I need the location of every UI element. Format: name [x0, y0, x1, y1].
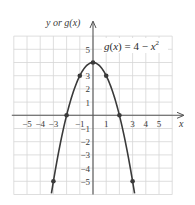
y-axis-label: y or g(x) — [45, 17, 81, 29]
y-tick-label: 3 — [86, 71, 91, 81]
x-tick-label: 1 — [104, 119, 109, 129]
x-tick-label: −4 — [35, 119, 45, 129]
y-tick-label: −5 — [80, 177, 90, 187]
data-point — [91, 60, 96, 65]
y-tick-label: −1 — [80, 124, 90, 134]
y-tick-label: 2 — [86, 84, 91, 94]
x-axis-label: x — [178, 118, 184, 129]
y-tick-label: 1 — [86, 98, 91, 108]
data-point — [51, 179, 56, 184]
x-tick-label: 4 — [144, 119, 149, 129]
data-point — [64, 113, 69, 118]
data-point — [117, 113, 122, 118]
function-label: g(x) = 4 − x2 — [102, 38, 168, 53]
y-tick-label: −3 — [80, 150, 90, 160]
y-tick-label: −2 — [80, 137, 90, 147]
data-point — [104, 73, 109, 78]
x-tick-label: −3 — [49, 119, 59, 129]
data-point — [78, 73, 83, 78]
x-tick-label: 3 — [130, 119, 135, 129]
function-graph: −5−4−3−113455321−1−2−3−4−5 g(x) = 4 − x2… — [0, 0, 195, 205]
y-tick-label: 5 — [86, 45, 91, 55]
x-tick-label: 5 — [157, 119, 162, 129]
data-point — [130, 179, 135, 184]
function-label-text: g(x) = 4 − x2 — [104, 39, 160, 53]
y-tick-label: −4 — [80, 164, 90, 174]
x-tick-label: −5 — [22, 119, 32, 129]
